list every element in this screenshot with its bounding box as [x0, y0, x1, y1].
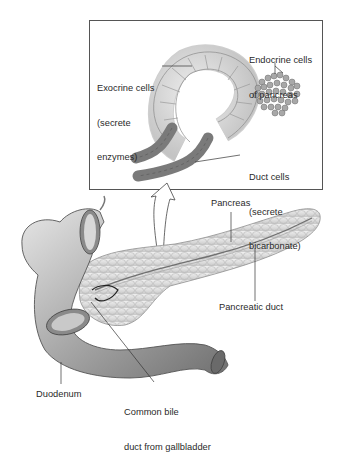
- label-duodenum: Duodenum: [36, 389, 81, 401]
- label-endocrine-cells: Endocrine cells of pancreas: [249, 32, 312, 113]
- label-duct-cells: Duct cells (secrete bicarbonate): [249, 149, 301, 264]
- label-common-bile-duct: Common bile duct from gallbladder: [124, 384, 211, 456]
- label-pancreatic-duct: Pancreatic duct: [219, 302, 283, 314]
- label-pancreas: Pancreas: [211, 198, 250, 210]
- label-exocrine-cells: Exocrine cells (secrete enzymes): [97, 60, 154, 175]
